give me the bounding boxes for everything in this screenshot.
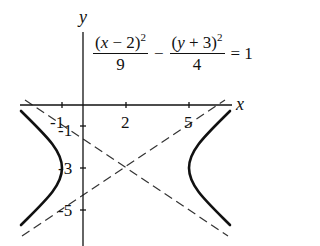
y-tick-label--5: -5 [58,201,72,220]
exponent: 2 [140,31,146,43]
term-x-numerator: (x − 2)2 [93,34,148,54]
exponent: 2 [217,31,223,43]
y-tick-label--1: -1 [58,121,72,140]
x-axis-label: x [235,94,244,114]
equals-one: = 1 [231,44,253,64]
y-tick-label--3: -3 [58,159,72,178]
y-axis-label: y [77,7,87,27]
term-x-rest: − 2) [108,33,140,52]
term-y-rest: + 3) [185,33,217,52]
hyperbola-right-branch [189,111,230,225]
x-tick-label-2: 2 [121,113,130,132]
term-x-denominator: 9 [116,54,125,73]
term-y-numerator: (y + 3)2 [170,34,225,54]
equation-term-x: (x − 2)2 9 [93,34,148,73]
x-tick-label-5: 5 [184,113,193,132]
equation-term-y: (y + 3)2 4 [170,34,225,73]
hyperbola-equation: (x − 2)2 9 − (y + 3)2 4 = 1 [93,34,259,73]
term-y-denominator: 4 [193,54,202,73]
minus-sign: − [154,44,164,64]
var-y: y [177,33,185,52]
